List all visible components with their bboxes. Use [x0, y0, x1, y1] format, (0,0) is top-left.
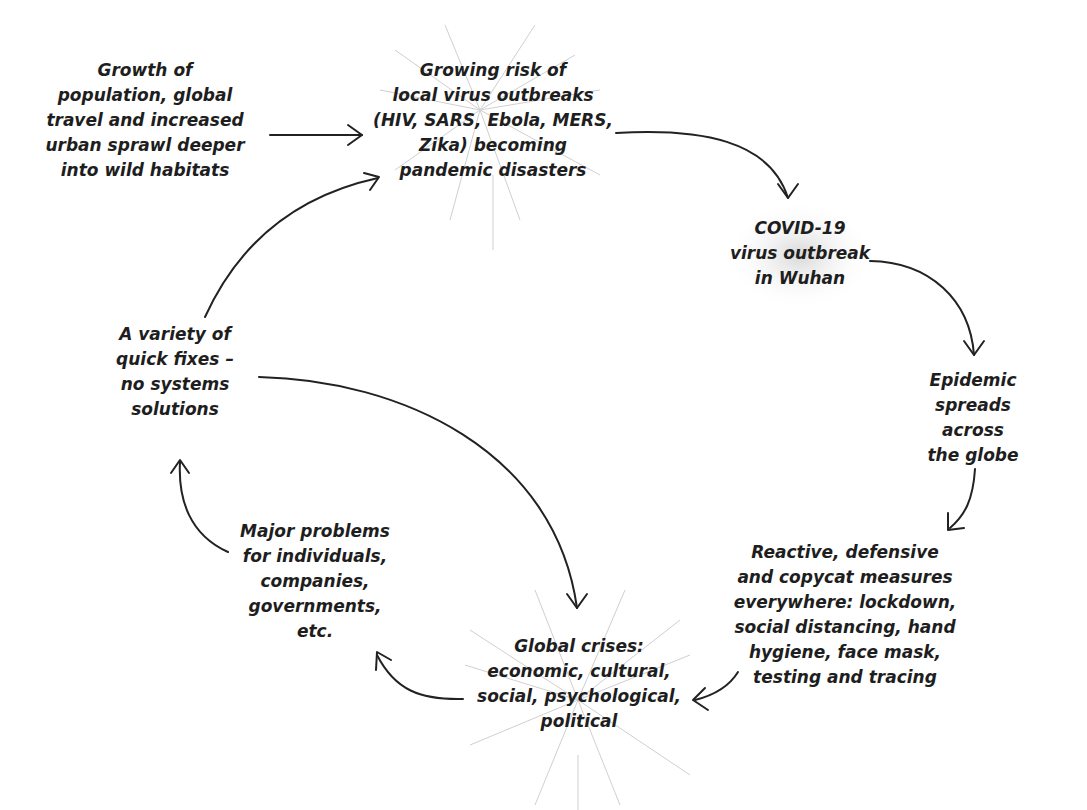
node-global-crises: Global crises: economic, cultural, socia… — [477, 634, 681, 734]
diagram-canvas: Growth of population, global travel and … — [0, 0, 1087, 810]
arrow-fixes-to-risk — [205, 173, 379, 317]
arrow-growth-to-risk — [270, 125, 362, 145]
node-major-problems: Major problems for individuals, companie… — [240, 519, 390, 644]
node-growth: Growth of population, global travel and … — [45, 58, 244, 183]
arrow-crises-to-problems — [376, 652, 463, 699]
arrow-problems-to-fixes — [171, 460, 228, 552]
arrow-risk-to-covid — [616, 132, 798, 198]
arrow-covid-to-epidemic — [870, 261, 984, 355]
node-quick-fixes: A variety of quick fixes – no systems so… — [116, 322, 234, 422]
node-covid-outbreak: COVID-19 virus outbreak in Wuhan — [730, 216, 870, 291]
node-reactive-measures: Reactive, defensive and copycat measures… — [734, 540, 957, 690]
node-epidemic-spreads: Epidemic spreads across the globe — [916, 368, 1030, 468]
arrow-reactive-to-crises — [693, 672, 738, 710]
node-growing-risk: Growing risk of local virus outbreaks (H… — [373, 58, 613, 183]
arrow-epidemic-to-reactive — [948, 469, 975, 530]
